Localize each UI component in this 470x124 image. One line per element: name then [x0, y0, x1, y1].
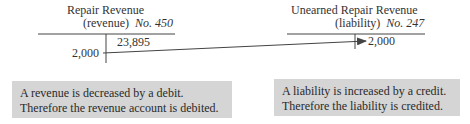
credit-entry: 2,000	[368, 35, 395, 48]
note-liability-credit: A liability is increased by a credit. Th…	[274, 79, 460, 116]
note-line: A liability is increased by a credit.	[282, 84, 452, 99]
note-revenue-debit: A revenue is decreased by a debit. There…	[12, 81, 232, 118]
account-type: (revenue)	[83, 16, 129, 30]
account-type: (liability)	[335, 16, 380, 30]
account-subtitle-unearned-repair-revenue: (liability) No. 247	[335, 17, 424, 30]
account-number: No. 247	[386, 16, 424, 30]
credit-entry: 23,895	[117, 36, 150, 49]
note-line: A revenue is decreased by a debit.	[20, 86, 224, 101]
note-line: Therefore the revenue account is debited…	[20, 101, 224, 116]
account-subtitle-repair-revenue: (revenue) No. 450	[83, 17, 173, 30]
account-number: No. 450	[135, 16, 173, 30]
note-line: Therefore the liability is credited.	[282, 99, 452, 114]
debit-entry: 2,000	[72, 47, 99, 60]
